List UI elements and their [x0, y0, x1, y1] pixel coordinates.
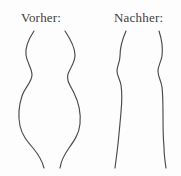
body-silhouette-figures	[0, 0, 181, 176]
before-right-contour	[60, 31, 80, 168]
after-figure	[115, 31, 166, 168]
illustration-canvas: Vorher: Nachher:	[0, 0, 181, 176]
before-left-contour	[19, 31, 44, 168]
before-figure	[19, 31, 80, 168]
after-right-contour	[158, 31, 166, 168]
after-left-contour	[115, 31, 126, 168]
